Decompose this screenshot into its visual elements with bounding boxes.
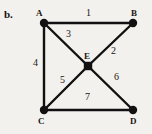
edge-label-2: 2 (111, 46, 116, 56)
vertex-label-b: B (131, 9, 137, 18)
edge-label-1: 1 (86, 8, 91, 18)
graph-diagram (0, 0, 152, 134)
vertex-d (129, 106, 137, 114)
vertex-e (84, 62, 92, 70)
edge-label-5: 5 (60, 75, 65, 85)
vertex-c (40, 106, 48, 114)
vertex-a (40, 19, 48, 27)
vertex-label-a: A (36, 9, 43, 18)
edge-label-3: 3 (66, 29, 71, 39)
vertex-label-c: C (38, 117, 45, 126)
edge-label-7: 7 (85, 92, 90, 102)
vertex-b (129, 19, 137, 27)
figure-canvas: b. A B C D E 1 2 3 4 5 6 7 (0, 0, 152, 134)
edge-label-4: 4 (33, 58, 38, 68)
vertex-label-e: E (84, 52, 90, 61)
edge-e-d (88, 66, 133, 110)
edge-label-6: 6 (114, 72, 119, 82)
edge-c-e (44, 66, 88, 110)
vertex-label-d: D (130, 117, 137, 126)
